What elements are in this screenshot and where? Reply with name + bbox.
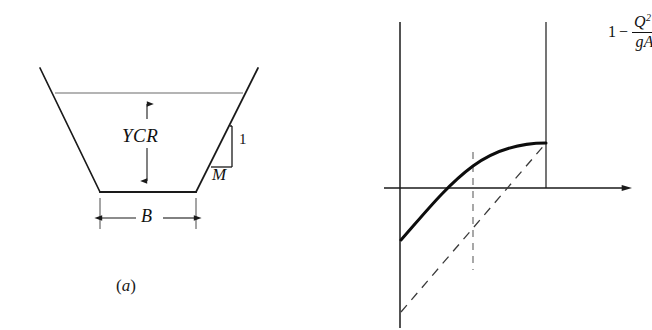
channel-cross-section-drawing: [0, 0, 326, 330]
function-plot-drawing: [326, 0, 652, 330]
left-bank-slope-line: [40, 68, 100, 192]
label-side-slope-horizontal: M: [212, 165, 226, 185]
y-label-leading-one: 1: [608, 23, 616, 41]
caption-panel-a: (a): [116, 276, 136, 296]
y-label-minus-sign: −: [619, 23, 628, 41]
y-label-numerator-q: Q: [634, 13, 646, 30]
y-label-fraction: Q2T gA3: [632, 14, 652, 51]
label-bottom-width: B: [141, 206, 152, 227]
right-bank-slope-line: [196, 68, 258, 192]
caption-a-close-paren: ): [130, 276, 136, 295]
y-label-denominator-ga: gA: [635, 33, 652, 50]
y-label-denominator: gA3: [633, 34, 652, 51]
panel-b-function-plot: 1 − Q2T gA3 0 100 y (b): [326, 0, 652, 330]
label-critical-depth: YCR: [122, 125, 158, 147]
caption-a-letter: a: [122, 276, 131, 295]
figure-root: YCR B M 1 (a): [0, 0, 652, 330]
plot-y-axis-label: 1 − Q2T gA3: [608, 14, 652, 51]
panel-a-channel-cross-section: YCR B M 1 (a): [0, 0, 326, 330]
label-side-slope-vertical: 1: [239, 131, 247, 148]
y-label-numerator: Q2T: [632, 14, 652, 31]
